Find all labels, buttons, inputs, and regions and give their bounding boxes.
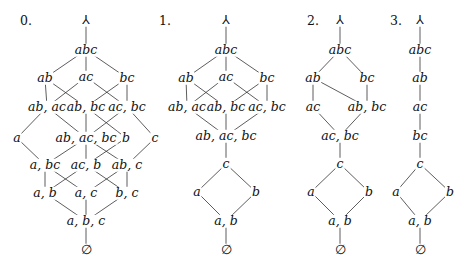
lattice-node-a-b: a, b xyxy=(32,187,57,200)
lattice-node-c: c xyxy=(150,132,159,145)
lattice-node-ab-ac-bc: ab, ac, bc xyxy=(55,132,118,145)
lattice-node-ab-bc: ab, bc xyxy=(206,101,246,114)
lattice-node-b: b xyxy=(121,132,131,145)
lattice-node-abc: abc xyxy=(328,44,352,57)
lattice-node-c: c xyxy=(415,158,424,171)
lattice-node-bc: bc xyxy=(258,72,275,85)
lattice-node-ac: ac xyxy=(78,71,94,84)
lattice-node-a-c: a, c xyxy=(74,187,98,200)
lattice-node-abc: abc xyxy=(74,44,98,57)
lattice-node-ac-bc: ac, bc xyxy=(107,101,146,114)
edge-ac_bc-c xyxy=(131,112,151,134)
lattice-node-ab-ac: ab, ac xyxy=(27,101,67,114)
lattice-node-a: a xyxy=(192,186,201,199)
lattice-node-a: a xyxy=(391,186,400,199)
top-symbol-node: ⅄ xyxy=(81,14,91,27)
lattice-node-ac-bc: ac, bc xyxy=(247,101,286,114)
edge-c-a xyxy=(315,168,335,188)
lattice-node-a: a xyxy=(306,186,315,199)
lattice-diagrams: 0.⅄abcabacbcab, acab, bcac, bcaab, ac, b… xyxy=(0,0,465,268)
lattice-node-b: b xyxy=(251,186,261,199)
lattice-node-ab: ab xyxy=(36,72,53,85)
diagram-label: 2. xyxy=(307,15,319,28)
lattice-node-ac: ac xyxy=(305,101,321,114)
lattice-node-ab: ab xyxy=(177,72,194,85)
lattice-node-ac-bc: ac, bc xyxy=(320,130,359,143)
empty-set-node: ∅ xyxy=(220,244,233,257)
top-symbol-node: ⅄ xyxy=(335,14,345,27)
lattice-node-ab-bc: ab, bc xyxy=(66,101,106,114)
empty-set-node: ∅ xyxy=(334,244,347,257)
lattice-node-ab: ab xyxy=(411,72,428,85)
lattice-node-ac-b: ac, b xyxy=(70,159,102,172)
lattice-node-ab-ac: ab, ac xyxy=(167,101,207,114)
lattice-node-ab-ac-bc: ab, ac, bc xyxy=(195,130,258,143)
diagram-label: 1. xyxy=(159,15,171,28)
lattice-node-abc: abc xyxy=(408,44,432,57)
lattice-node-a-b: a, b xyxy=(213,215,238,228)
lattice-node-ac: ac xyxy=(412,101,428,114)
edge-c-a xyxy=(400,169,416,188)
lattice-node-a-b: a, b xyxy=(407,215,432,228)
lattice-node-c: c xyxy=(335,158,344,171)
top-symbol-node: ⅄ xyxy=(221,14,231,27)
lattice-node-abc: abc xyxy=(214,44,238,57)
lattice-node-ab-bc: ab, bc xyxy=(347,101,387,114)
empty-set-node: ∅ xyxy=(80,244,93,257)
lattice-node-b-c: b, c xyxy=(115,187,140,200)
lattice-node-a-b: a, b xyxy=(327,215,352,228)
diagram-label: 0. xyxy=(20,15,32,28)
edge-c-b xyxy=(230,168,251,188)
edge-c-a xyxy=(201,168,221,188)
empty-set-node: ∅ xyxy=(414,244,427,257)
edge-ab_ac-a xyxy=(21,111,43,133)
lattice-node-ab-c: ab, c xyxy=(111,159,143,172)
lattice-node-bc: bc xyxy=(118,72,135,85)
edge-c-b xyxy=(344,168,364,188)
lattice-node-bc: bc xyxy=(411,130,428,143)
lattice-node-a-bc: a, bc xyxy=(29,159,61,172)
lattice-node-b: b xyxy=(364,186,374,199)
lattice-node-ab: ab xyxy=(304,72,321,85)
lattice-node-a: a xyxy=(12,132,21,145)
lattice-node-ac: ac xyxy=(218,71,234,84)
edge-c-b xyxy=(424,168,445,188)
lattice-node-c: c xyxy=(221,158,230,171)
lattice-node-a-b-c: a, b, c xyxy=(66,215,106,228)
lattice-node-b: b xyxy=(445,186,455,199)
diagram-label: 3. xyxy=(390,15,402,28)
top-symbol-node: ⅄ xyxy=(415,14,425,27)
lattice-node-bc: bc xyxy=(358,72,375,85)
